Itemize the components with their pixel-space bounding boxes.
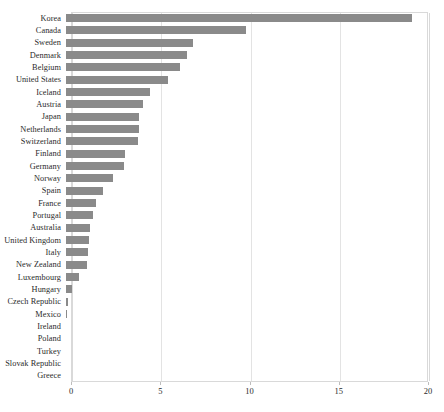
chart-row: Netherlands: [0, 123, 444, 135]
bar-finland: [66, 150, 125, 158]
category-label-turkey: Turkey: [0, 347, 66, 356]
category-label-czech-republic: Czech Republic: [0, 297, 66, 306]
category-label-belgium: Belgium: [0, 63, 66, 72]
chart-row: Ireland: [0, 320, 444, 332]
category-label-norway: Norway: [0, 174, 66, 183]
category-label-finland: Finland: [0, 149, 66, 158]
chart-row: Poland: [0, 333, 444, 345]
x-tick-label-15: 15: [335, 386, 344, 397]
category-label-united-states: United States: [0, 75, 66, 84]
bar-austria: [66, 100, 143, 108]
category-label-korea: Korea: [0, 14, 66, 23]
category-label-hungary: Hungary: [0, 285, 66, 294]
chart-row: Switzerland: [0, 135, 444, 147]
bar-mexico: [66, 310, 67, 318]
chart-row: Mexico: [0, 308, 444, 320]
category-label-denmark: Denmark: [0, 51, 66, 60]
tick-mark-15: [339, 382, 340, 385]
category-label-canada: Canada: [0, 26, 66, 35]
chart-row: Germany: [0, 160, 444, 172]
x-tick-label-5: 5: [158, 386, 162, 397]
bar-united-states: [66, 76, 168, 84]
x-tick-label-0: 0: [69, 386, 73, 397]
bar-track: [66, 296, 444, 308]
chart-row: Australia: [0, 222, 444, 234]
chart-row: United States: [0, 74, 444, 86]
chart-row: Norway: [0, 172, 444, 184]
chart-row: Italy: [0, 246, 444, 258]
category-label-portugal: Portugal: [0, 211, 66, 220]
chart-row: Spain: [0, 185, 444, 197]
bar-germany: [66, 162, 124, 170]
bar-chart: KoreaCanadaSwedenDenmarkBelgiumUnited St…: [0, 0, 444, 412]
chart-row: United Kingdom: [0, 234, 444, 246]
bar-track: [66, 308, 444, 320]
tick-mark-0: [71, 382, 72, 385]
chart-row: Belgium: [0, 61, 444, 73]
tick-mark-20: [428, 382, 429, 385]
category-label-sweden: Sweden: [0, 38, 66, 47]
bar-track: [66, 98, 444, 110]
bar-track: [66, 160, 444, 172]
bar-track: [66, 333, 444, 345]
chart-row: Japan: [0, 111, 444, 123]
chart-row: Czech Republic: [0, 296, 444, 308]
bar-track: [66, 61, 444, 73]
bar-track: [66, 12, 444, 24]
bar-track: [66, 185, 444, 197]
chart-row: Portugal: [0, 209, 444, 221]
bar-switzerland: [66, 137, 138, 145]
bar-track: [66, 135, 444, 147]
category-label-luxembourg: Luxembourg: [0, 273, 66, 282]
bar-iceland: [66, 88, 150, 96]
bar-track: [66, 86, 444, 98]
bar-track: [66, 357, 444, 369]
category-label-united-kingdom: United Kingdom: [0, 236, 66, 245]
category-label-iceland: Iceland: [0, 88, 66, 97]
category-label-switzerland: Switzerland: [0, 137, 66, 146]
x-tick-label-20: 20: [424, 386, 433, 397]
category-label-spain: Spain: [0, 186, 66, 195]
bar-korea: [66, 14, 412, 22]
bar-track: [66, 345, 444, 357]
bar-track: [66, 172, 444, 184]
bar-track: [66, 24, 444, 36]
bar-track: [66, 234, 444, 246]
chart-row: Slovak Republic: [0, 357, 444, 369]
chart-row: Iceland: [0, 86, 444, 98]
chart-row: Sweden: [0, 37, 444, 49]
bar-track: [66, 49, 444, 61]
bar-denmark: [66, 51, 187, 59]
bar-norway: [66, 174, 113, 182]
x-axis-tick-labels: 05101520: [0, 386, 444, 402]
bar-portugal: [66, 211, 93, 219]
category-label-mexico: Mexico: [0, 310, 66, 319]
bar-track: [66, 271, 444, 283]
category-label-australia: Australia: [0, 223, 66, 232]
chart-row: Finland: [0, 148, 444, 160]
bar-new-zealand: [66, 261, 87, 269]
bar-track: [66, 283, 444, 295]
bar-track: [66, 370, 444, 382]
category-label-austria: Austria: [0, 100, 66, 109]
chart-row: Denmark: [0, 49, 444, 61]
bar-luxembourg: [66, 273, 79, 281]
category-label-japan: Japan: [0, 112, 66, 121]
bar-canada: [66, 26, 246, 34]
chart-row: Luxembourg: [0, 271, 444, 283]
chart-row: Austria: [0, 98, 444, 110]
chart-row: New Zealand: [0, 259, 444, 271]
chart-row: Korea: [0, 12, 444, 24]
bar-united-kingdom: [66, 236, 89, 244]
category-label-germany: Germany: [0, 162, 66, 171]
bar-track: [66, 320, 444, 332]
bar-australia: [66, 224, 90, 232]
category-label-poland: Poland: [0, 334, 66, 343]
category-label-new-zealand: New Zealand: [0, 260, 66, 269]
bar-track: [66, 74, 444, 86]
bar-france: [66, 199, 96, 207]
bar-track: [66, 148, 444, 160]
bar-track: [66, 197, 444, 209]
chart-row: Turkey: [0, 345, 444, 357]
category-label-france: France: [0, 199, 66, 208]
